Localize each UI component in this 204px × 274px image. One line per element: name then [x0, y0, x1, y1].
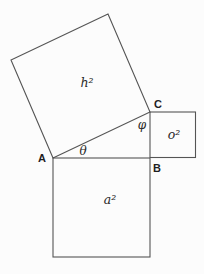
label-opposite-square: o²: [168, 127, 181, 142]
figure-canvas: A B C θ φ h² o² a²: [0, 0, 204, 274]
vertex-label-b: B: [153, 162, 161, 174]
pythagorean-theorem-diagram: A B C θ φ h² o² a²: [0, 0, 204, 274]
label-hypotenuse-square: h²: [80, 75, 93, 90]
label-adjacent-square: a²: [104, 192, 116, 207]
angle-label-phi: φ: [138, 118, 147, 132]
angle-label-theta: θ: [79, 144, 87, 158]
vertex-label-a: A: [38, 152, 46, 164]
vertex-label-c: C: [154, 98, 162, 110]
